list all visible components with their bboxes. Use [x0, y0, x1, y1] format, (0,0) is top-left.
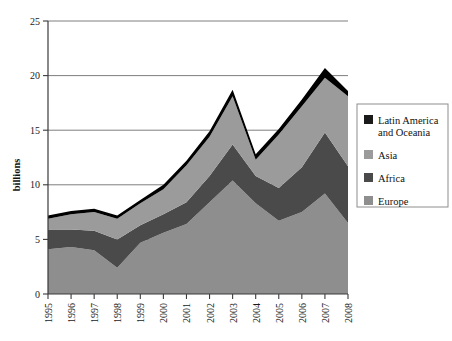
area-series-group — [48, 68, 348, 294]
x-tick-label-2005: 2005 — [274, 303, 285, 323]
x-tick-label-2004: 2004 — [251, 303, 262, 323]
x-tick-label-1998: 1998 — [112, 303, 123, 323]
y-tick-label-10: 10 — [30, 179, 40, 190]
x-tick-label-2002: 2002 — [205, 303, 216, 323]
x-tick-label-2007: 2007 — [320, 303, 331, 323]
y-tick-label-20: 20 — [30, 70, 40, 81]
legend-swatch-latin-america-and-oceania — [364, 115, 373, 124]
chart-legend: Latin Americaand OceaniaAsiaAfricaEurope — [357, 104, 448, 207]
y-axis-ticks: 0510152025 — [30, 16, 48, 300]
stacked-area-chart: 0510152025 19951996199719981999200020012… — [0, 0, 452, 341]
x-tick-label-1996: 1996 — [66, 303, 77, 323]
legend-label-latin-america-and-oceania: and Oceania — [378, 127, 431, 138]
legend-label-asia: Asia — [378, 150, 398, 161]
x-tick-label-1995: 1995 — [43, 303, 54, 323]
y-tick-label-15: 15 — [30, 125, 40, 136]
legend-label-europe: Europe — [378, 196, 409, 207]
y-tick-label-25: 25 — [30, 16, 40, 27]
x-tick-label-1999: 1999 — [135, 303, 146, 323]
y-tick-label-5: 5 — [35, 234, 40, 245]
chart-canvas: 0510152025 19951996199719981999200020012… — [0, 0, 452, 341]
y-axis-title: billions — [11, 159, 22, 192]
y-axis-title-label: billions — [11, 159, 22, 192]
legend-swatch-africa — [364, 173, 373, 182]
y-tick-label-0: 0 — [35, 289, 40, 300]
x-tick-label-2006: 2006 — [297, 303, 308, 323]
legend-swatch-europe — [364, 196, 373, 205]
legend-label-latin-america-and-oceania: Latin America — [378, 115, 439, 126]
x-tick-label-2003: 2003 — [228, 303, 239, 323]
x-tick-label-2008: 2008 — [343, 303, 354, 323]
x-tick-label-1997: 1997 — [89, 303, 100, 323]
legend-swatch-asia — [364, 150, 373, 159]
legend-label-africa: Africa — [378, 173, 405, 184]
x-axis-ticks: 1995199619971998199920002001200220032004… — [43, 294, 354, 323]
x-tick-label-2000: 2000 — [158, 303, 169, 323]
x-tick-label-2001: 2001 — [181, 303, 192, 323]
